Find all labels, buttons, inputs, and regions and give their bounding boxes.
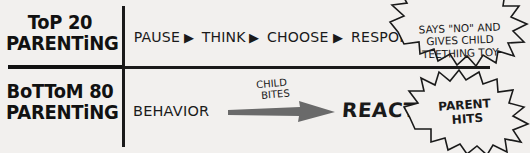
right-triangle-icon: ▶ [333,31,343,44]
right-arrow-icon [228,100,336,124]
right-triangle-icon: ▶ [184,31,194,44]
bottom-row-heading: BoTToM 80 PARENTiNG [0,82,120,122]
right-triangle-icon: ▶ [249,31,259,44]
row-divider-line-heavy [8,65,124,69]
bottom-row-heading-line1: BoTToM 80 [4,82,117,101]
top-row-callout-text: SAYS "NO" AND GIVES CHILD TEETHING TOY [398,20,521,61]
bottom-row-heading-line2: PARENTiNG [6,102,114,122]
step-think: THINK [201,29,245,45]
step-pause: PAUSE [134,29,180,45]
bottom-row-callout-text: PARENT HITS [427,95,503,128]
step-choose: CHOOSE [267,29,329,45]
top-row-heading-line1: ToP 20 [4,13,117,32]
top-row-heading-line2: PARENTiNG [6,33,114,53]
top-row-heading: ToP 20 PARENTiNG [0,13,120,53]
column-divider-line [122,6,125,147]
top-row-step-sequence: PAUSE ▶ THINK ▶ CHOOSE ▶ RESPOND [133,29,422,45]
behavior-label: BEHAVIOR [133,103,209,119]
parenting-comparison-diagram: ToP 20 PARENTiNG PAUSE ▶ THINK ▶ CHOOSE … [0,0,530,153]
